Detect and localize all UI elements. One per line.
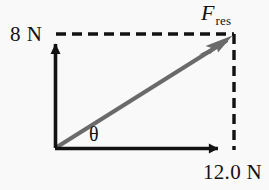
- resultant-force-symbol: F: [201, 0, 214, 25]
- resultant-arrowhead-icon: [199, 36, 233, 55]
- force-vector-diagram: 8 N 12.0 N Fres θ: [0, 0, 269, 190]
- y-component-magnitude-label: 8 N: [10, 24, 42, 45]
- resultant-force-subscript: res: [215, 13, 231, 28]
- resultant-force-label: Fres: [201, 2, 230, 24]
- angle-theta-label: θ: [89, 124, 99, 144]
- resultant-vector-shaft: [57, 41, 226, 147]
- x-component-magnitude-label: 12.0 N: [203, 162, 262, 183]
